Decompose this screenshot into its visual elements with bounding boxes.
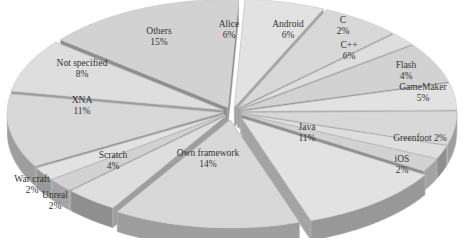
slice-label-percent: 11% <box>42 106 122 117</box>
slice-label-percent: 2% <box>362 165 442 176</box>
slice-label-percent: 14% <box>168 159 248 170</box>
slice-label-name: iOS <box>362 154 442 165</box>
slice-label-percent: 2% <box>15 201 95 212</box>
slice-label-name: Own framework <box>168 148 248 159</box>
slice-label-percent: 15% <box>119 37 199 48</box>
slice-label-name: Others <box>119 26 199 37</box>
slice-label: C++6% <box>309 40 389 62</box>
slice-label: Own framework14% <box>168 148 248 170</box>
slice-label-name: Java <box>267 122 347 133</box>
slice-label-name: GameMaker <box>383 82 463 93</box>
slice-label-percent: 4% <box>366 71 446 82</box>
slice-label: C2% <box>303 15 383 37</box>
slice-label: Flash4% <box>366 60 446 82</box>
slice-label-name: War craft <box>0 174 72 185</box>
slice-label-percent: 4% <box>73 161 153 172</box>
slice-label: XNA11% <box>42 95 122 117</box>
slice-label: Java11% <box>267 122 347 144</box>
slice-label-name: Flash <box>366 60 446 71</box>
slice-label-percent: 2% <box>0 185 72 196</box>
slice-label-percent: 5% <box>383 93 463 104</box>
slice-label-name: XNA <box>42 95 122 106</box>
slice-label-percent: 8% <box>42 69 122 80</box>
slice-label-percent: 2% <box>303 26 383 37</box>
slice-label-name: Scratch <box>73 150 153 161</box>
slice-label: Others15% <box>119 26 199 48</box>
slice-label: War craft2% <box>0 174 72 196</box>
slice-label: GameMaker5% <box>383 82 463 104</box>
slice-label-name: C++ <box>309 40 389 51</box>
slice-label-name: Greenfoot 2% <box>380 133 460 144</box>
slice-label-percent: 11% <box>267 133 347 144</box>
slice-label-name: C <box>303 15 383 26</box>
slice-label: Scratch4% <box>73 150 153 172</box>
slice-label: Greenfoot 2% <box>380 133 460 144</box>
slice-label: Not specified8% <box>42 58 122 80</box>
slice-label-name: Not specified <box>42 58 122 69</box>
slice-label: iOS2% <box>362 154 442 176</box>
